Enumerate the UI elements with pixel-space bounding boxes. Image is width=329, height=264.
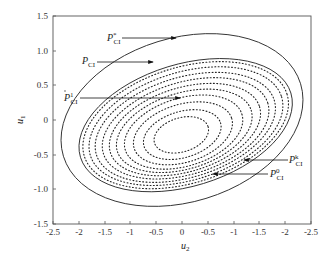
svg-text:-0.5: -0.5 <box>149 227 164 237</box>
svg-text:-1: -1 <box>126 227 134 237</box>
svg-text:-1: -1 <box>230 227 238 237</box>
ellipse-chart: 1.5 1.0 0.5 0 -0.5 -1.0 -1.5 -2.5 -2 -1.… <box>0 0 329 264</box>
svg-text:-1.5: -1.5 <box>98 227 113 237</box>
svg-text:-2.5: -2.5 <box>46 227 61 237</box>
svg-text:0: 0 <box>180 227 185 237</box>
svg-text:PCI: PCI <box>81 55 96 69</box>
svg-text:-2: -2 <box>75 227 83 237</box>
p-star-ci-boundary <box>39 5 324 234</box>
annotation-p-star-ci: P*CI <box>106 31 176 46</box>
svg-text:-0.5: -0.5 <box>201 227 216 237</box>
annotation-p-ci: PCI <box>81 55 153 69</box>
svg-text:1.0: 1.0 <box>37 46 49 56</box>
svg-text:0: 0 <box>44 115 49 125</box>
svg-text:P*CI: P*CI <box>106 31 121 46</box>
svg-text:P1CI: P1CI <box>63 91 78 106</box>
svg-text:-1.5: -1.5 <box>252 227 267 237</box>
svg-text:1.5: 1.5 <box>37 11 49 21</box>
svg-text:-0.5: -0.5 <box>34 150 49 160</box>
svg-text:PkCI: PkCI <box>288 153 303 168</box>
y-axis-label: u1 <box>14 115 27 124</box>
svg-text:-1.0: -1.0 <box>34 184 49 194</box>
svg-text:-2.5: -2.5 <box>304 227 319 237</box>
dotted-level-sets <box>67 39 304 212</box>
svg-text:P0CI: P0CI <box>269 167 284 182</box>
x-tick-labels: -2.5 -2 -1.5 -1 -0.5 0 -0.5 -1 -1.5 -2 -… <box>46 227 319 237</box>
y-tick-labels: 1.5 1.0 0.5 0 -0.5 -1.0 -1.5 <box>34 11 49 229</box>
x-axis-label: u2 <box>181 240 190 253</box>
svg-text:-2: -2 <box>281 227 289 237</box>
svg-text:0.5: 0.5 <box>37 80 49 90</box>
